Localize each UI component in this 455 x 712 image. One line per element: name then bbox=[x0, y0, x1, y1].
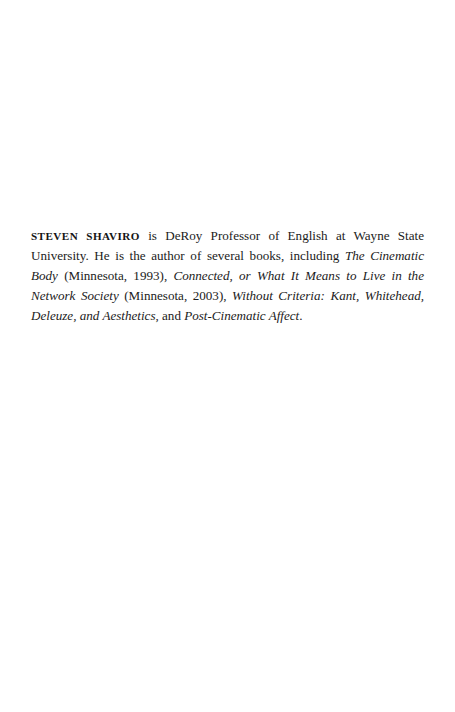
book-page: STEVEN SHAVIRO is DeRoy Professor of Eng… bbox=[0, 0, 455, 712]
bio-text-segment-4: , and bbox=[155, 308, 184, 323]
author-bio-paragraph: STEVEN SHAVIRO is DeRoy Professor of Eng… bbox=[31, 226, 424, 326]
top-blank-margin bbox=[0, 0, 455, 226]
bio-text-segment-5: . bbox=[299, 308, 302, 323]
bottom-blank-margin bbox=[0, 330, 455, 712]
author-bio-block: STEVEN SHAVIRO is DeRoy Professor of Eng… bbox=[31, 226, 424, 326]
work-title-post-cinematic-affect: Post-Cinematic Affect bbox=[184, 308, 299, 323]
bio-text-segment-3: (Minnesota, 2003), bbox=[119, 288, 232, 303]
author-name: STEVEN SHAVIRO bbox=[31, 230, 140, 242]
bio-text-segment-2: (Minnesota, 1993), bbox=[58, 268, 174, 283]
